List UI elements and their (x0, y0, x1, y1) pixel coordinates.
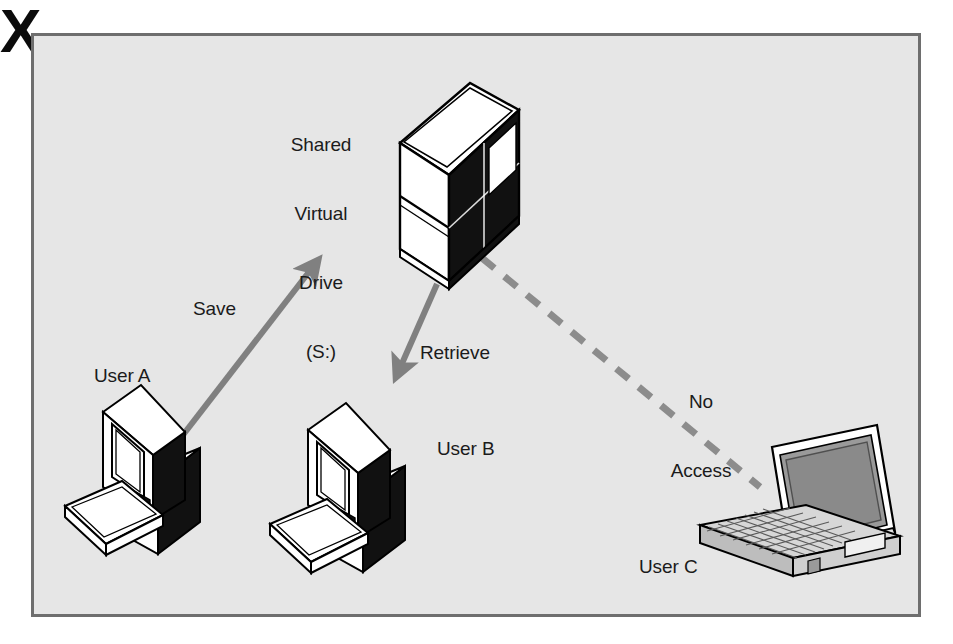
label-no-access-line-1: No (657, 390, 745, 413)
desktop-computer-icon-user-b (270, 403, 405, 573)
label-retrieve: Retrieve (420, 341, 490, 364)
label-save: Save (193, 297, 236, 320)
label-user-b: User B (437, 437, 494, 460)
label-user-c: User C (639, 555, 698, 578)
label-drive-line-1: Shared (245, 133, 397, 156)
desktop-computer-icon-user-a (65, 385, 200, 555)
server-cabinet-icon (400, 83, 519, 289)
label-drive-line-2: Virtual (245, 202, 397, 225)
label-user-a: User A (94, 364, 150, 387)
label-no-access: No Access (657, 344, 745, 528)
diagram-graphics (0, 0, 953, 644)
label-drive-line-4: (S:) (245, 340, 397, 363)
label-no-access-line-2: Access (657, 459, 745, 482)
label-shared-virtual-drive: Shared Virtual Drive (S:) (245, 87, 397, 409)
label-drive-line-3: Drive (245, 271, 397, 294)
diagram-canvas: Shared Virtual Drive (S:) Save Retrieve … (0, 0, 953, 644)
